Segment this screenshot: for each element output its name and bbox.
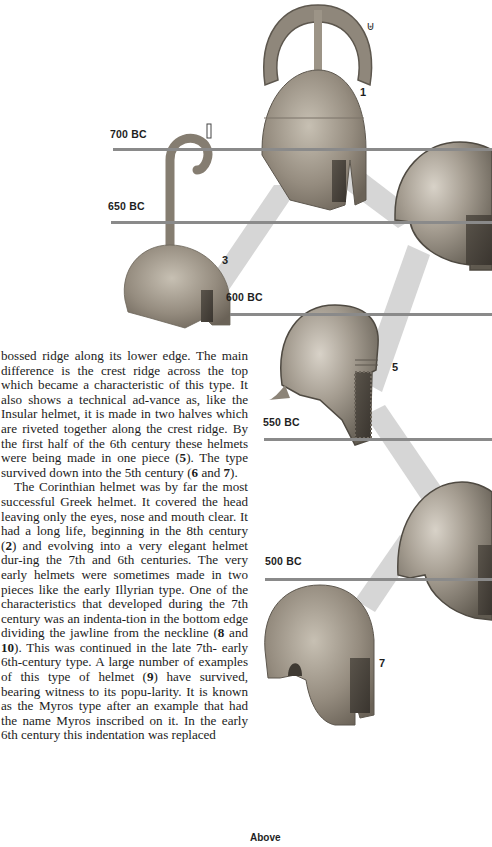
timeline-line-650bc bbox=[111, 221, 492, 224]
helmet-1-illustration bbox=[262, 5, 372, 210]
helmet-number-3: 3 bbox=[222, 254, 228, 266]
helmet-1-mark: ⊎ bbox=[366, 19, 375, 33]
timeline-line-700bc bbox=[113, 148, 492, 151]
helmet-7-illustration bbox=[265, 585, 374, 725]
helmet-3-mark bbox=[207, 124, 211, 138]
timeline-line-500bc bbox=[265, 578, 492, 581]
timeline-label-600bc: 600 BC bbox=[226, 291, 263, 303]
helmet-6-illustration bbox=[398, 482, 492, 620]
helmet-number-1: 1 bbox=[360, 86, 366, 98]
timeline-label-550bc: 550 BC bbox=[263, 416, 300, 428]
timeline-label-500bc: 500 BC bbox=[265, 555, 302, 567]
helmet-3-illustration bbox=[124, 138, 230, 328]
paragraph-2: The Corinthian helmet was by far the mos… bbox=[1, 480, 248, 743]
timeline-line-600bc bbox=[230, 313, 492, 316]
caption-heading: Above bbox=[250, 832, 281, 843]
figure-ref-10: 10 bbox=[1, 640, 14, 655]
timeline-line-550bc bbox=[264, 438, 492, 441]
timeline-label-700bc: 700 BC bbox=[110, 128, 147, 140]
helmet-number-5: 5 bbox=[392, 361, 398, 373]
timeline-label-650bc: 650 BC bbox=[108, 200, 145, 212]
article-body: bossed ridge along its lower edge. The m… bbox=[1, 349, 248, 743]
helmet-number-7: 7 bbox=[379, 657, 385, 669]
paragraph-1: bossed ridge along its lower edge. The m… bbox=[1, 349, 248, 480]
